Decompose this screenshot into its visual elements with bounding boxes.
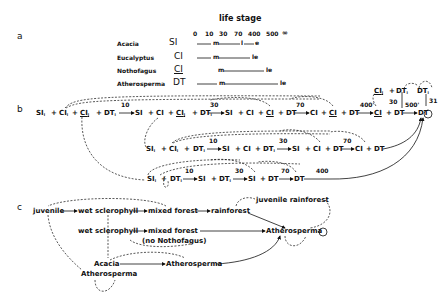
diagram-lines — [0, 0, 446, 299]
